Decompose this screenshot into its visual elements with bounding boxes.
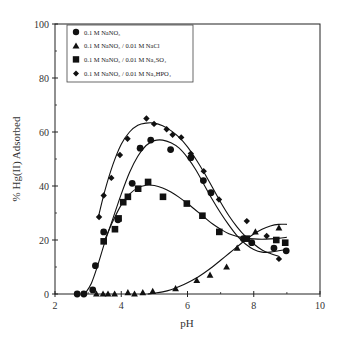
diamond-marker	[143, 115, 149, 121]
circle-marker	[208, 189, 215, 196]
x-tick-label: 4	[119, 300, 124, 311]
circle-marker	[80, 291, 87, 298]
circle-marker-icon	[73, 29, 79, 35]
y-axis-label: % Hg(II) Adsorbed	[10, 116, 23, 201]
square-marker	[115, 215, 122, 222]
adsorption-chart: 020406080100 246810 pH % Hg(II) Adsorbed…	[0, 0, 340, 344]
circle-marker	[283, 247, 290, 254]
triangle-marker	[223, 263, 230, 269]
diamond-marker	[169, 132, 175, 138]
triangle-marker	[193, 277, 200, 283]
legend: 0.1 M NaNO₃ 0.1 M NaNO₃ / 0.01 M NaCl 0.…	[67, 25, 193, 82]
square-marker	[282, 239, 289, 246]
square-marker	[125, 194, 132, 201]
legend-item-nacl: 0.1 M NaNO₃ / 0.01 M NaCl	[73, 42, 160, 49]
square-marker	[184, 200, 191, 207]
circle-marker	[129, 180, 136, 187]
circle-marker	[200, 177, 207, 184]
y-tick-label: 60	[39, 127, 49, 138]
circle-marker	[100, 229, 107, 236]
circle-marker	[147, 137, 154, 144]
square-marker	[112, 226, 119, 233]
circle-marker	[92, 262, 99, 269]
triangle-marker	[172, 285, 179, 291]
x-tick-label: 10	[315, 300, 325, 311]
y-tick-label: 0	[44, 289, 49, 300]
x-tick-label: 8	[251, 300, 256, 311]
x-tick-label: 6	[185, 300, 190, 311]
square-marker	[216, 229, 223, 236]
y-tick-label: 20	[39, 235, 49, 246]
diamond-marker	[216, 196, 222, 202]
square-marker	[199, 212, 206, 219]
x-axis-label: pH	[180, 317, 194, 329]
diamond-marker	[263, 233, 269, 239]
square-marker-icon	[73, 56, 79, 62]
y-tick-label: 80	[39, 73, 49, 84]
x-tick-label: 2	[53, 300, 58, 311]
square-marker	[135, 185, 142, 192]
data-points	[74, 115, 290, 297]
triangle-marker	[207, 272, 214, 278]
diamond-marker	[96, 214, 102, 220]
legend-item-na2hpo4: 0.1 M NaNO₃ / 0.01 M Na₂HPO₄	[73, 70, 172, 77]
y-tick-label: 100	[34, 19, 49, 30]
diamond-marker	[276, 256, 282, 262]
legend-label: 0.1 M NaNO₃ / 0.01 M NaCl	[84, 42, 160, 49]
fit-curve	[105, 185, 287, 240]
square-marker	[243, 235, 250, 242]
fit-curves	[85, 123, 287, 294]
triangle-marker	[124, 289, 131, 295]
diamond-marker	[100, 192, 106, 198]
diamond-marker	[244, 218, 250, 224]
legend-label: 0.1 M NaNO₃ / 0.01 M Na₂SO₄	[84, 56, 167, 63]
y-tick-label: 40	[39, 181, 49, 192]
circle-marker	[89, 287, 96, 294]
triangle-marker	[276, 224, 283, 230]
circle-marker	[137, 145, 144, 152]
triangle-marker	[149, 288, 156, 294]
circle-marker	[271, 245, 278, 252]
circle-marker	[74, 291, 81, 298]
square-marker	[100, 238, 107, 245]
circle-marker	[167, 146, 174, 153]
legend-label: 0.1 M NaNO₃ / 0.01 M Na₂HPO₄	[84, 70, 172, 77]
square-marker	[145, 179, 152, 186]
diamond-marker	[178, 134, 184, 140]
legend-item-na2so4: 0.1 M NaNO₃ / 0.01 M Na₂SO₄	[73, 56, 167, 63]
y-axis-ticks: 020406080100	[34, 19, 58, 300]
legend-label: 0.1 M NaNO₃	[84, 29, 120, 36]
square-marker	[273, 237, 280, 244]
diamond-marker	[151, 121, 157, 127]
square-marker	[160, 194, 167, 201]
triangle-marker	[139, 289, 146, 295]
